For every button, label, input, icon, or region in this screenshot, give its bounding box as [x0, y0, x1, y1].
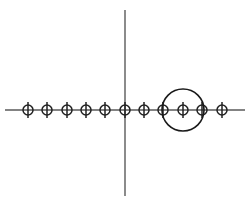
- diagram-canvas: [0, 0, 251, 205]
- number-line-diagram: [0, 0, 251, 205]
